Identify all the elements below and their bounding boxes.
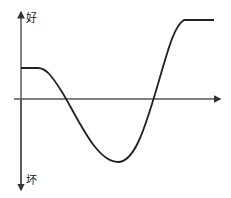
diagram-canvas: [0, 0, 231, 198]
good-label: 好: [26, 13, 37, 24]
bad-label: 坏: [26, 175, 37, 186]
curve: [21, 20, 214, 162]
